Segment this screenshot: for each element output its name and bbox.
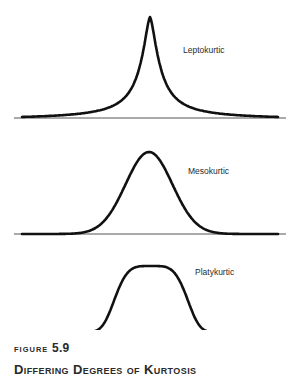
curve-leptokurtic xyxy=(22,17,278,117)
panel-platykurtic: Platykurtic xyxy=(14,266,286,330)
label-platykurtic: Platykurtic xyxy=(195,267,235,277)
curve-mesokurtic xyxy=(22,152,278,234)
figure-number: FIGURE 5.9 xyxy=(14,341,70,355)
curve-platykurtic xyxy=(22,266,278,330)
figure-title: Differing Degrees of Kurtosis xyxy=(14,362,196,377)
label-mesokurtic: Mesokurtic xyxy=(188,166,230,176)
figure-number-value: 5.9 xyxy=(52,341,70,355)
panel-leptokurtic: Leptokurtic xyxy=(14,17,286,118)
kurtosis-figure: Leptokurtic Mesokurtic Platykurtic xyxy=(0,0,300,330)
panel-mesokurtic: Mesokurtic xyxy=(14,152,286,234)
label-leptokurtic: Leptokurtic xyxy=(183,45,225,55)
figure-prefix: FIGURE xyxy=(14,345,48,354)
